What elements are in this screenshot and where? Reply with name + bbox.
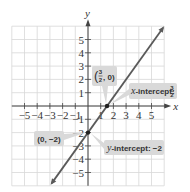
x-tick-label: −2 — [57, 109, 69, 121]
x-axis-arrow-icon — [164, 104, 171, 109]
y-tick-label: 2 — [79, 73, 85, 85]
x-tick-label: −3 — [44, 109, 56, 121]
x-intercept-label-text: x-intercept: — [130, 85, 175, 96]
y-intercept-label-text: y-intercept: −2 — [106, 142, 162, 153]
y-axis-arrow-icon — [86, 19, 91, 26]
x-intercept-coord-rest: , 0) — [103, 73, 115, 82]
y-intercept-label-pointer — [91, 134, 104, 149]
y-intercept-label-rest: -intercept: −2 — [111, 144, 162, 153]
x-tick-label: −5 — [19, 109, 31, 121]
x-tick-label: 4 — [136, 109, 142, 121]
y-tick-label: 3 — [79, 60, 85, 72]
y-axis-label: y — [84, 7, 90, 19]
y-tick-label: −1 — [72, 113, 84, 125]
x-intercept-coord-pointer — [102, 86, 108, 104]
x-tick-label: 5 — [149, 109, 155, 121]
y-tick-label: −5 — [72, 167, 84, 179]
y-intercept-coord-text: (0, −2) — [37, 135, 61, 144]
y-intercept-point — [86, 130, 90, 134]
x-tick-label: 3 — [123, 109, 129, 121]
y-tick-label: −4 — [72, 153, 84, 165]
y-tick-label: 4 — [79, 47, 85, 59]
y-tick-label: 5 — [79, 34, 85, 46]
x-axis-label: x — [172, 100, 178, 112]
graph: xy −5−4−3−2−11234554321−1−2−3−4−5 (32, 0… — [0, 0, 190, 192]
y-tick-label: 1 — [79, 87, 85, 99]
x-tick-label: 2 — [111, 109, 117, 121]
x-tick-label: −4 — [31, 109, 43, 121]
y-tick-label: −2 — [72, 127, 84, 139]
x-intercept-point — [105, 104, 109, 108]
x-intercept-label-rest: -intercept: — [135, 87, 174, 96]
